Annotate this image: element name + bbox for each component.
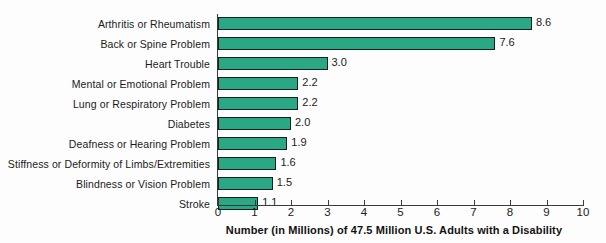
x-axis-tick-label: 1 <box>251 206 257 218</box>
x-axis-tick-label: 8 <box>507 206 513 218</box>
category-label: Deafness or Hearing Problem <box>0 134 214 154</box>
category-axis-labels: Arthritis or RheumatismBack or Spine Pro… <box>0 14 214 214</box>
x-axis-tick-labels: 012345678910 <box>218 206 583 222</box>
x-axis-tick <box>583 200 584 205</box>
plot-area: 8.67.63.02.22.22.01.91.61.51.1 <box>218 14 583 205</box>
x-axis-tick-label: 9 <box>543 206 549 218</box>
category-label: Blindness or Vision Problem <box>0 174 214 194</box>
bar-row: 2.2 <box>218 94 583 114</box>
category-label: Stiffness or Deformity of Limbs/Extremit… <box>0 154 214 174</box>
bar-value-label: 1.6 <box>280 156 295 168</box>
bar-value-label: 1.9 <box>291 136 306 148</box>
x-axis-tick <box>474 200 475 205</box>
x-axis-tick-label: 2 <box>288 206 294 218</box>
x-axis-tick-label: 5 <box>397 206 403 218</box>
bar-row: 3.0 <box>218 54 583 74</box>
category-label: Heart Trouble <box>0 54 214 74</box>
x-axis-ticks <box>218 200 583 205</box>
bar-value-label: 2.2 <box>302 96 317 108</box>
x-axis-tick <box>437 200 438 205</box>
bar-row: 2.0 <box>218 114 583 134</box>
x-axis-tick <box>291 200 292 205</box>
bar-value-label: 2.2 <box>302 76 317 88</box>
bar-row: 8.6 <box>218 14 583 34</box>
x-axis-tick-label: 10 <box>577 206 590 218</box>
x-axis-title-text: Number (in Millions) of 47.5 Million U.S… <box>44 224 562 236</box>
x-axis-title: Number (in Millions) of 47.5 Million U.S… <box>0 224 606 236</box>
category-label: Back or Spine Problem <box>0 34 214 54</box>
bar-value-label: 3.0 <box>332 56 347 68</box>
bar[interactable] <box>218 57 328 70</box>
bar-value-label: 1.5 <box>277 176 292 188</box>
x-axis-tick-label: 0 <box>215 206 221 218</box>
category-label: Mental or Emotional Problem <box>0 74 214 94</box>
bar[interactable] <box>218 37 495 50</box>
bar[interactable] <box>218 97 298 110</box>
bar[interactable] <box>218 117 291 130</box>
x-axis-tick <box>401 200 402 205</box>
bar-row: 1.9 <box>218 134 583 154</box>
category-label: Lung or Respiratory Problem <box>0 94 214 114</box>
bar[interactable] <box>218 17 532 30</box>
bar[interactable] <box>218 77 298 90</box>
x-axis-tick-label: 7 <box>470 206 476 218</box>
x-axis-tick-label: 3 <box>324 206 330 218</box>
bar-value-label: 2.0 <box>295 116 310 128</box>
x-axis-tick-label: 4 <box>361 206 367 218</box>
bar-row: 1.5 <box>218 174 583 194</box>
x-axis-tick <box>255 200 256 205</box>
x-axis-tick <box>364 200 365 205</box>
bar-row: 7.6 <box>218 34 583 54</box>
category-label: Stroke <box>0 194 214 214</box>
x-axis-tick-label: 6 <box>434 206 440 218</box>
bar-value-label: 7.6 <box>499 36 514 48</box>
bar-row: 2.2 <box>218 74 583 94</box>
y-axis-line <box>217 14 218 206</box>
bar[interactable] <box>218 177 273 190</box>
bar-row: 1.6 <box>218 154 583 174</box>
bar-chart: Arthritis or RheumatismBack or Spine Pro… <box>0 0 606 243</box>
bar[interactable] <box>218 157 276 170</box>
category-label: Arthritis or Rheumatism <box>0 14 214 34</box>
x-axis-tick <box>547 200 548 205</box>
bar[interactable] <box>218 137 287 150</box>
x-axis-tick <box>218 200 219 205</box>
bar-value-label: 8.6 <box>536 16 551 28</box>
x-axis-tick <box>328 200 329 205</box>
x-axis-tick <box>510 200 511 205</box>
category-label: Diabetes <box>0 114 214 134</box>
